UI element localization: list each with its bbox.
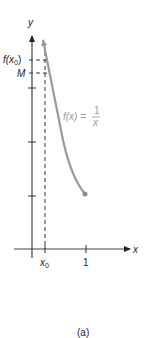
figure-caption: (a) — [77, 327, 89, 338]
svg-text:1: 1 — [94, 105, 100, 116]
x-axis-label: x — [132, 244, 139, 255]
chart-canvas: y x f(x0) M x0 1 f(x) = 1 x (a) — [0, 0, 152, 338]
x0-label: x0 — [39, 257, 49, 269]
y-axis-label: y — [27, 17, 34, 28]
curve-endpoint-dot — [83, 192, 88, 197]
svg-text:f(x) =: f(x) = — [63, 111, 86, 122]
one-label: 1 — [83, 257, 89, 268]
M-label: M — [17, 68, 26, 79]
svg-text:x: x — [92, 117, 99, 128]
fx0-label: f(x0) — [3, 54, 21, 66]
function-label: f(x) = 1 x — [63, 105, 100, 128]
